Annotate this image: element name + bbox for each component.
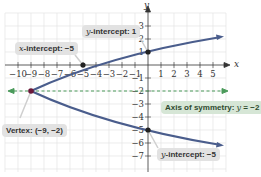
svg-text:3: 3 [184,69,189,79]
y-intercept-1-point [145,49,150,54]
x-axis-label: x [234,59,239,69]
y-intercept-neg5-point [145,127,150,132]
x-intercept-point [80,62,85,67]
axis-of-symmetry-label: Axis of symmetry: y = −2 [161,101,261,114]
svg-text:−7: −7 [131,151,144,161]
svg-text:−4: −4 [90,69,103,79]
x-intercept-label: x-intercept: −5 [15,42,78,55]
svg-text:5: 5 [210,69,215,79]
svg-text:−9: −9 [25,69,38,79]
svg-text:−2: −2 [116,69,129,79]
vertex-point [28,88,34,94]
vertex-label: Vertex: (−9, −2) [2,124,67,137]
svg-text:−4: −4 [131,112,144,122]
y-intercept-1-label: y-intercept: 1 [82,25,140,38]
svg-text:−8: −8 [38,69,51,79]
svg-text:1: 1 [158,69,163,79]
svg-text:2: 2 [171,69,176,79]
svg-text:−6: −6 [131,138,144,148]
y-intercept-neg5-label: y-intercept: −5 [157,148,220,161]
svg-text:−3: −3 [131,99,144,109]
x-tick-labels: −10−9−8−7 −6−5−4−3 −2−112 345 [9,69,216,79]
y-axis-label: y [143,0,150,10]
svg-text:−1: −1 [131,73,144,83]
svg-text:4: 4 [197,69,202,79]
svg-text:−3: −3 [103,69,116,79]
